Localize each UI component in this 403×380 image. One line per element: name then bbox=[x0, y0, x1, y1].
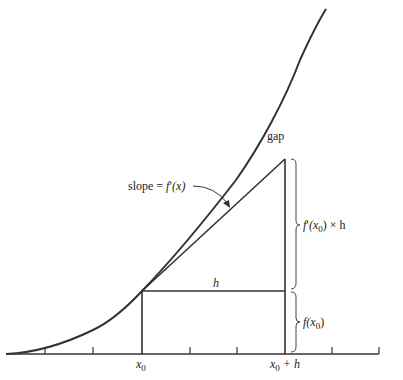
derivative-diagram: gap slope = f′(x) h f′(x0) × h f(x0) x0 … bbox=[0, 0, 403, 380]
gap-label: gap bbox=[267, 129, 284, 143]
x0-label: x0 bbox=[135, 357, 146, 373]
slope-label: slope = f′(x) bbox=[128, 179, 185, 193]
axis-ticks bbox=[45, 347, 379, 354]
slope-arrow bbox=[193, 186, 228, 204]
lower-brace bbox=[291, 292, 300, 352]
x0-plus-h-label: x0 + h bbox=[269, 357, 300, 373]
arrowhead-icon bbox=[223, 200, 230, 208]
h-label: h bbox=[213, 276, 219, 290]
fprime-times-h-label: f′(x0) × h bbox=[303, 218, 346, 234]
f-x0-label: f(x0) bbox=[303, 315, 324, 331]
upper-brace bbox=[291, 159, 300, 289]
